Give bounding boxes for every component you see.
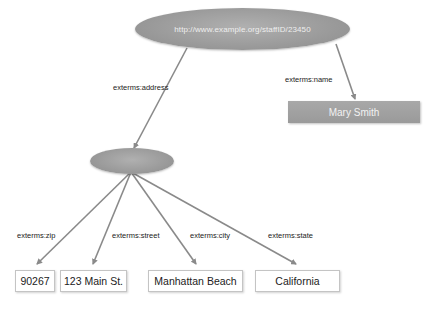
edge-name [336,44,355,99]
edge-state [131,172,296,264]
blank-node[interactable] [90,148,174,174]
edge-city [131,172,196,264]
edge-label-state: exterms:state [268,231,313,240]
literal-zip[interactable]: 90267 [15,270,55,292]
root-node[interactable]: http://www.example.org/staffID/23450 [135,8,350,50]
edge-street [93,172,131,264]
name-node-label: Mary Smith [329,107,380,118]
literal-city-label: Manhattan Beach [154,275,236,287]
root-node-label: http://www.example.org/staffID/23450 [174,25,310,34]
edge-zip [37,172,131,264]
edge-label-address: exterms:address [113,83,168,92]
edge-label-zip: exterms:zip [17,231,55,240]
name-node[interactable]: Mary Smith [288,101,420,123]
literal-city[interactable]: Manhattan Beach [148,270,243,292]
edge-label-name: exterms:name [285,75,333,84]
edge-label-street: exterms:street [112,231,160,240]
literal-state[interactable]: California [255,270,340,292]
edge-label-city: exterms:city [190,231,230,240]
edge-address [134,48,187,148]
literal-state-label: California [275,275,319,287]
literal-street-label: 123 Main St. [64,275,123,287]
literal-street[interactable]: 123 Main St. [60,270,127,292]
literal-zip-label: 90267 [20,275,49,287]
